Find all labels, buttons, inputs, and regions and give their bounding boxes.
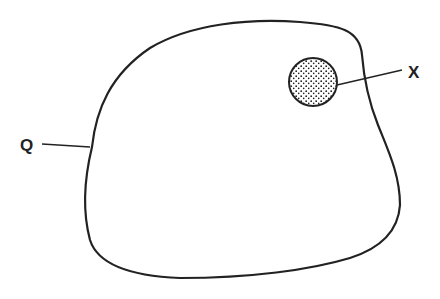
leader-line-q <box>42 144 90 147</box>
outer-boundary-q <box>85 21 400 278</box>
label-q: Q <box>20 136 33 155</box>
label-x: X <box>408 63 420 82</box>
leader-line-x <box>337 70 402 85</box>
inner-body-x <box>289 58 337 106</box>
cell-diagram: X Q <box>0 0 440 299</box>
